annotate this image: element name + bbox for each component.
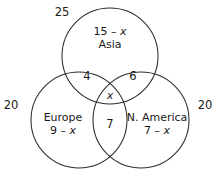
circle-asia: [62, 8, 158, 104]
venn-circles-graphic: [0, 0, 220, 176]
venn-diagram: 25 20 20 15 – x Asia Europe 9 – x N. Ame…: [0, 0, 220, 176]
circle-europe: [31, 72, 127, 168]
circle-north-america: [93, 72, 189, 168]
